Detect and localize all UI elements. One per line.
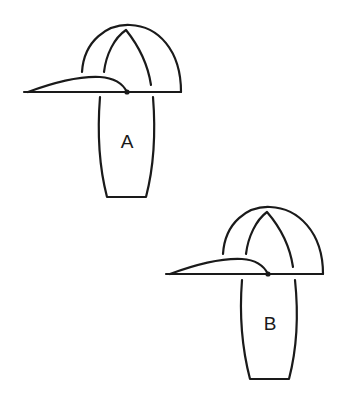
- figure-label-a: A: [121, 131, 134, 152]
- cap-brim: [170, 259, 268, 274]
- cap-dome: [223, 207, 323, 274]
- pivot-dot: [265, 271, 270, 276]
- figure-label-b: B: [264, 313, 277, 334]
- cap-panel-seam: [104, 30, 151, 85]
- figure-b: B: [166, 207, 323, 379]
- figure-a: A: [24, 25, 181, 197]
- cap-panel-seam: [246, 212, 293, 267]
- cap-icon: [24, 25, 181, 95]
- cap-brim: [28, 77, 127, 92]
- cap-icon: [166, 207, 323, 277]
- pivot-dot: [124, 89, 129, 94]
- cap-dome: [82, 25, 181, 92]
- diagram-canvas: A B: [0, 0, 346, 399]
